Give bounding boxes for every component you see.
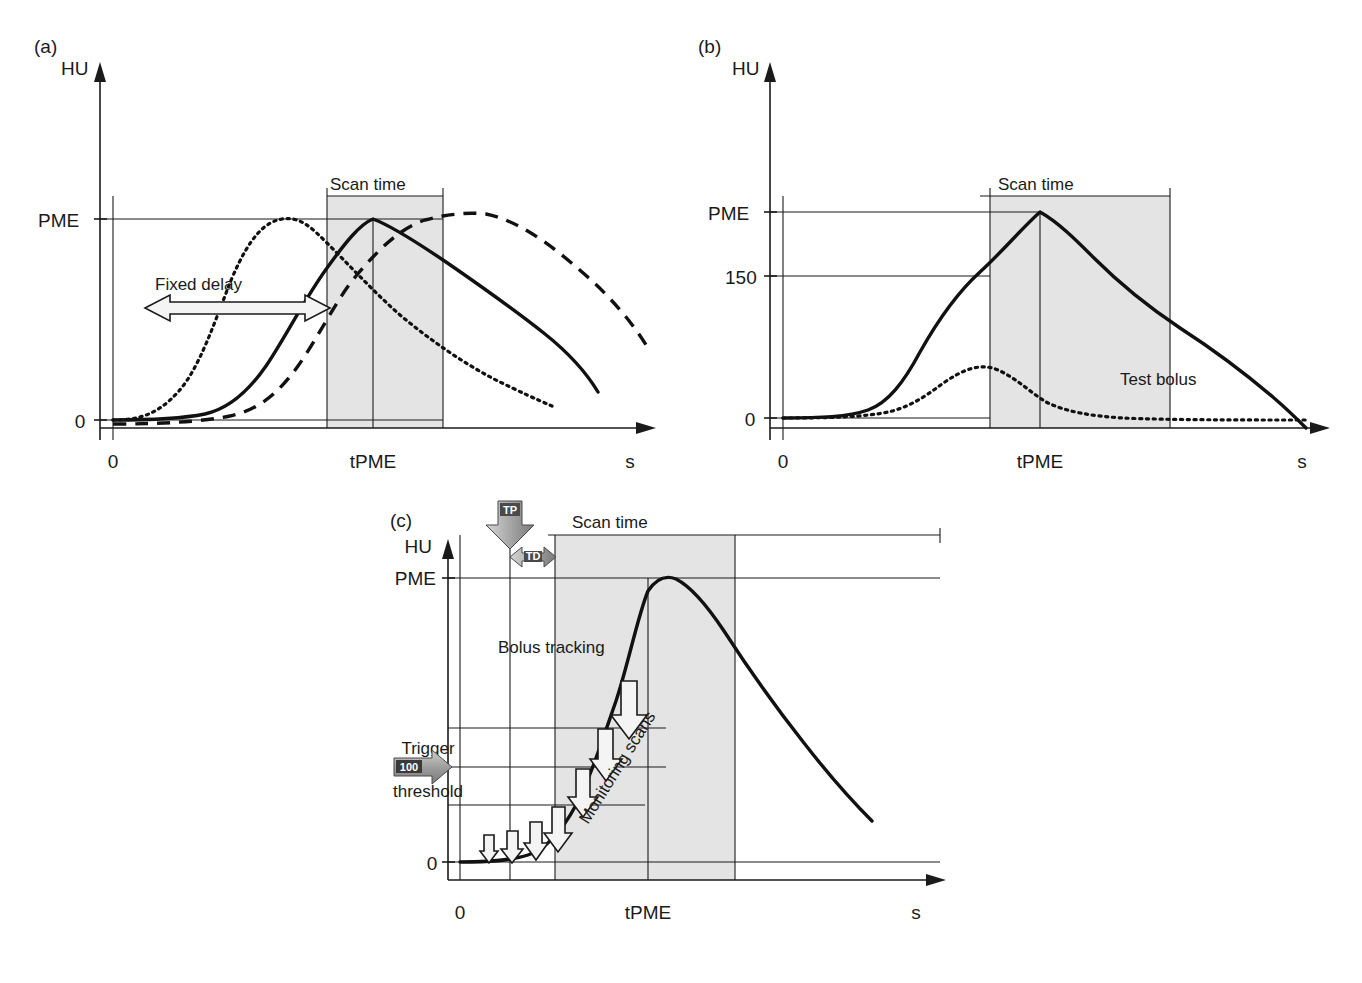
scan-time-band (555, 535, 735, 880)
y-axis-label: HU (732, 58, 759, 79)
ytick-zero: 0 (745, 409, 756, 430)
scan-time-label: Scan time (330, 175, 406, 194)
figure-caption (0, 963, 1362, 983)
monitoring-scan-arrow (480, 835, 498, 863)
y-axis-arrowhead (442, 539, 454, 559)
x-axis-label: s (1297, 451, 1307, 472)
ytick-pme: PME (708, 203, 749, 224)
x-axis-arrowhead (636, 422, 656, 434)
panel-b-chart: Scan time HU PME 150 0 0 tPME s Test bol… (680, 0, 1362, 500)
xtick-zero: 0 (455, 902, 466, 923)
panel-c: Scan time HU PME 0 0 tPME s Bolus tracki… (380, 495, 1080, 965)
x-axis-label: s (625, 451, 635, 472)
scan-time-band (327, 196, 443, 428)
y-axis-label: HU (61, 58, 88, 79)
trigger-point-marker: TP (486, 501, 534, 549)
panel-c-tag: (c) (390, 510, 412, 531)
ytick-150: 150 (725, 267, 757, 288)
ytick-pme: PME (395, 568, 436, 589)
x-axis-arrowhead (1310, 422, 1330, 434)
panel-c-chart: Scan time HU PME 0 0 tPME s Bolus tracki… (380, 495, 1080, 965)
xtick-tpme: tPME (350, 451, 396, 472)
trigger-value-text: 100 (400, 761, 418, 773)
y-axis-label: HU (405, 536, 432, 557)
panel-b-tag: (b) (698, 36, 721, 57)
panel-a-tag: (a) (34, 36, 57, 57)
test-bolus-label: Test bolus (1120, 370, 1197, 389)
fixed-delay-arrow (145, 295, 330, 321)
x-axis-arrowhead (926, 874, 946, 886)
panel-b: Scan time HU PME 150 0 0 tPME s Test bol… (680, 0, 1362, 500)
panel-a: Scan time HU PME 0 0 tPME s Fixed delay … (0, 0, 680, 500)
fixed-delay-label: Fixed delay (155, 275, 242, 294)
ytick-pme: PME (38, 210, 79, 231)
threshold-label: threshold (393, 782, 463, 801)
tp-text: TP (503, 504, 517, 516)
td-text: TD (526, 550, 541, 562)
xtick-zero: 0 (108, 451, 119, 472)
x-axis-label: s (911, 902, 921, 923)
y-axis-arrowhead (764, 62, 776, 82)
xtick-tpme: tPME (1017, 451, 1063, 472)
panel-a-chart: Scan time HU PME 0 0 tPME s Fixed delay … (0, 0, 680, 500)
xtick-tpme: tPME (625, 902, 671, 923)
y-axis-arrowhead (94, 62, 106, 82)
bolus-tracking-label: Bolus tracking (498, 638, 605, 657)
xtick-zero: 0 (778, 451, 789, 472)
ytick-zero: 0 (427, 853, 438, 874)
ytick-zero: 0 (75, 411, 86, 432)
scan-time-label: Scan time (572, 513, 648, 532)
scan-time-band (990, 196, 1170, 428)
trigger-delay-marker: TD (510, 547, 556, 567)
scan-time-label: Scan time (998, 175, 1074, 194)
trigger-label: Trigger (401, 739, 455, 758)
